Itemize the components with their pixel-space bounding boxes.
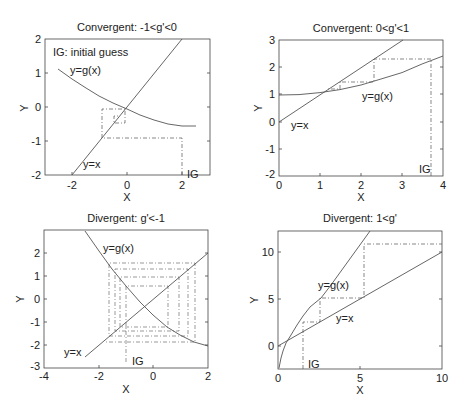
- x-tick-label: 3: [399, 179, 405, 191]
- label-g-of-x: y=g(x): [70, 64, 101, 76]
- label-y-equals-x: y=x: [83, 158, 101, 170]
- figure: Convergent: -1<g'<0 2 1 0 -1 -2 -2 0 2 X…: [0, 0, 466, 410]
- x-axis-label: X: [357, 191, 365, 203]
- iteration-path: [102, 109, 182, 175]
- x-tick-label: 2: [179, 179, 185, 191]
- x-tick-label: 4: [440, 179, 446, 191]
- panel-divergent-pos: Divergent: 1<g' 10 5 0 0 5 10 X Y y=g(x)…: [248, 212, 448, 396]
- curve-g-of-x: [279, 56, 443, 95]
- label-y-equals-x: y=x: [64, 346, 82, 358]
- line-y-equals-x: [72, 39, 182, 175]
- y-tick-label: 0: [268, 340, 274, 352]
- x-tick-label: 0: [275, 372, 281, 384]
- panel-title: Convergent: 0<g'<1: [313, 22, 409, 34]
- panel-title: Divergent: g'<-1: [87, 212, 165, 224]
- y-axis-ticks: [45, 73, 210, 175]
- plot-frame: [278, 231, 442, 369]
- x-tick-label: 10: [436, 372, 448, 384]
- x-axis-label: X: [122, 383, 130, 395]
- x-tick-label: 2: [358, 179, 364, 191]
- y-tick-label: -1: [30, 316, 40, 328]
- panel-title: Divergent: 1<g': [323, 212, 397, 224]
- y-tick-label: 0: [35, 101, 41, 113]
- x-axis-label: X: [123, 191, 131, 203]
- y-axis-label: Y: [248, 296, 260, 304]
- x-tick-label: -2: [94, 370, 104, 382]
- y-tick-label: 3: [269, 34, 275, 46]
- label-initial-guess: IG: [132, 355, 144, 367]
- label-g-of-x: y=g(x): [362, 90, 393, 102]
- label-initial-guess: IG: [419, 163, 431, 175]
- x-tick-label: 0: [150, 370, 156, 382]
- label-y-equals-x: y=x: [336, 312, 354, 324]
- line-y-equals-x: [278, 252, 442, 346]
- y-axis-label: Y: [18, 104, 30, 112]
- x-axis-label: X: [356, 384, 364, 396]
- x-tick-label: 0: [124, 179, 130, 191]
- x-tick-label: -4: [39, 370, 49, 382]
- label-g-of-x: y=g(x): [318, 279, 349, 291]
- label-y-equals-x: y=x: [291, 119, 309, 131]
- y-tick-label: 5: [268, 293, 274, 305]
- y-tick-label: 1: [35, 67, 41, 79]
- plot-frame: [279, 40, 443, 176]
- y-tick-label: 0: [269, 116, 275, 128]
- label-g-of-x: y=g(x): [103, 242, 134, 254]
- y-tick-label: -1: [31, 135, 41, 147]
- curve-g-of-x: [279, 231, 370, 368]
- panel-convergent-neg: Convergent: -1<g'<0 2 1 0 -1 -2 -2 0 2 X…: [18, 21, 210, 203]
- x-tick-label: 5: [357, 372, 363, 384]
- y-tick-label: 1: [34, 270, 40, 282]
- curve-g-of-x: [58, 69, 196, 126]
- panel-convergent-pos: Convergent: 0<g'<1 3 2 1 0 -1 -2 0 1 2 3…: [252, 22, 446, 203]
- y-tick-label: 2: [35, 33, 41, 45]
- legend-note: IG: initial guess: [53, 46, 129, 58]
- y-tick-label: 1: [269, 88, 275, 100]
- y-tick-label: -2: [31, 169, 41, 181]
- line-y-equals-x: [85, 253, 208, 357]
- y-tick-label: 0: [34, 293, 40, 305]
- y-axis-label: Y: [252, 104, 264, 112]
- y-tick-label: -2: [30, 339, 40, 351]
- label-initial-guess: IG: [308, 358, 320, 370]
- y-axis-label: Y: [14, 295, 26, 303]
- y-tick-label: 2: [34, 247, 40, 259]
- y-tick-label: -2: [265, 168, 275, 180]
- iteration-path: [328, 59, 431, 176]
- x-tick-label: 1: [317, 179, 323, 191]
- axis-ticks: [278, 252, 442, 369]
- line-y-equals-x: [279, 40, 403, 122]
- label-initial-guess: IG: [187, 168, 199, 180]
- y-tick-label: -1: [265, 143, 275, 155]
- y-tick-label: 10: [262, 246, 274, 258]
- x-tick-label: 0: [276, 179, 282, 191]
- x-tick-label: -2: [67, 179, 77, 191]
- x-tick-label: 2: [205, 370, 211, 382]
- panel-title: Convergent: -1<g'<0: [77, 21, 177, 33]
- panel-divergent-neg: Divergent: g'<-1 2 1 0 -1 -2 -3 -4 -2 0 …: [14, 212, 211, 395]
- y-tick-label: 2: [269, 61, 275, 73]
- iteration-path: [303, 244, 442, 369]
